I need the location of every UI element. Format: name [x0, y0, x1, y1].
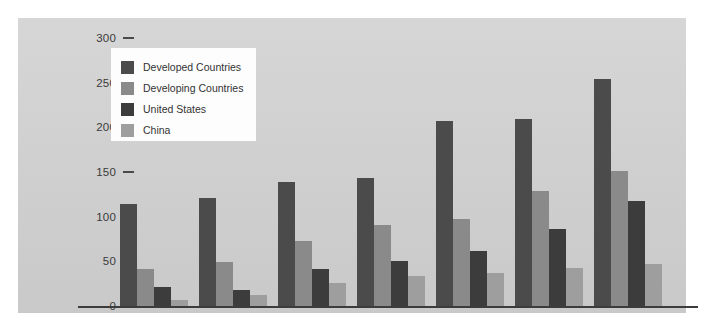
- bar: [549, 229, 566, 307]
- bar: [645, 264, 662, 307]
- bar: [391, 261, 408, 307]
- bar: [278, 182, 295, 307]
- bar: [120, 204, 137, 307]
- bar: [532, 191, 549, 307]
- legend-swatch-icon: [121, 124, 134, 137]
- legend-item: Developing Countries: [121, 78, 246, 99]
- legend-item: Developed Countries: [121, 57, 246, 78]
- chart-panel: 050100150200250300 199119921993199419951…: [18, 18, 686, 313]
- bar: [137, 269, 154, 307]
- bar: [408, 276, 425, 307]
- bar: [611, 171, 628, 307]
- bar: [436, 121, 453, 307]
- legend-item-label: Developed Countries: [143, 61, 241, 74]
- bar-group: [436, 38, 504, 307]
- bar: [233, 290, 250, 307]
- bar: [374, 225, 391, 307]
- bar-group: [357, 38, 425, 307]
- legend-item-label: Developing Countries: [143, 82, 243, 95]
- legend-swatch-icon: [121, 82, 134, 95]
- legend-item: United States: [121, 99, 246, 120]
- bar: [470, 251, 487, 307]
- bar: [357, 178, 374, 307]
- bar: [216, 262, 233, 307]
- bar: [515, 119, 532, 307]
- bar: [628, 201, 645, 307]
- legend-item: China: [121, 120, 246, 141]
- bar: [295, 241, 312, 307]
- legend-item-label: United States: [143, 103, 206, 116]
- bar: [199, 198, 216, 307]
- bar: [329, 283, 346, 307]
- bar: [453, 219, 470, 307]
- bar-group: [278, 38, 346, 307]
- bar: [312, 269, 329, 307]
- legend-item-label: China: [143, 124, 170, 137]
- legend-swatch-icon: [121, 103, 134, 116]
- legend: Developed CountriesDeveloping CountriesU…: [111, 48, 256, 141]
- bar: [594, 79, 611, 307]
- x-axis-line: [78, 306, 698, 308]
- chart-figure: 050100150200250300 199119921993199419951…: [0, 0, 705, 321]
- bar: [154, 287, 171, 307]
- bar: [487, 273, 504, 307]
- bar-group: [594, 38, 662, 307]
- bar: [566, 268, 583, 307]
- bar-group: [515, 38, 583, 307]
- legend-swatch-icon: [121, 61, 134, 74]
